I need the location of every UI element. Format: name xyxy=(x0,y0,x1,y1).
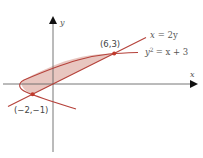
intersection-point-6-3 xyxy=(112,51,116,55)
point-label-neg2-neg1: (−2,−1) xyxy=(14,105,48,115)
y-axis-label: y xyxy=(59,18,65,27)
intersection-point-neg2-neg1 xyxy=(31,92,35,96)
svg-text:x= 2y: x= 2y xyxy=(150,30,178,40)
parabola-equation-label: y2= x + 3 xyxy=(144,46,188,57)
shaded-region xyxy=(22,53,115,94)
region-diagram: x y (6,3) (−2,−1) x= 2y y2= x + 3 xyxy=(0,0,203,158)
x-axis-arrow-icon xyxy=(190,80,198,88)
point-label-6-3: (6,3) xyxy=(100,39,120,49)
svg-text:y2= x + 3: y2= x + 3 xyxy=(144,46,188,57)
y-axis-arrow-icon xyxy=(49,16,57,24)
line-curve xyxy=(8,38,146,107)
x-axis-label: x xyxy=(190,70,195,79)
line-equation-label: x= 2y xyxy=(150,30,178,40)
